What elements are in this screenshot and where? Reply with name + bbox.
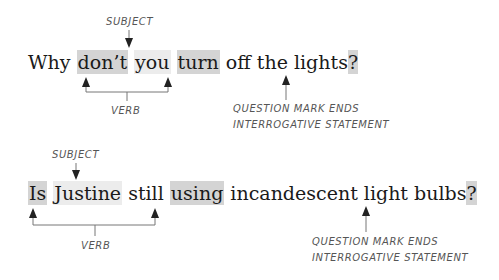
subject-arrow-2 [72,163,80,180]
verb-bracket-2 [29,208,159,236]
verb-part-is: Is [28,181,47,205]
verb-label-1: VERB [111,103,140,118]
word-still: still [128,181,164,205]
subject-arrow-1 [125,30,133,48]
question-caption-1-line1: QUESTION MARK ENDS [233,101,359,116]
sentence-rest: off the lights [226,50,348,74]
subject-label-1: SUBJECT [106,14,153,29]
subject-justine: Justine [53,181,122,205]
sentence-2: Is Justine still using incandescent ligh… [28,181,477,205]
subject-you: you [134,50,170,74]
question-caption-2-line1: QUESTION MARK ENDS [312,234,438,249]
subject-label-2: SUBJECT [52,147,99,162]
sentence-1: Why don’t you turn off the lights? [28,50,358,74]
question-caption-1-line2: INTERROGATIVE STATEMENT [233,117,389,132]
verb-part-turn: turn [177,50,220,74]
verb-part-using: using [170,181,224,205]
verb-label-2: VERB [81,238,110,253]
grammar-diagram: SUBJECT Why don’t you turn off the light… [0,0,499,280]
question-arrow-1 [282,75,290,100]
question-mark: ? [348,50,358,74]
question-arrow-2 [362,206,370,232]
question-caption-2-line2: INTERROGATIVE STATEMENT [312,250,468,265]
sentence-rest: incandescent light bulbs [230,181,466,205]
word-why: Why [28,50,71,74]
question-mark: ? [466,181,476,205]
verb-bracket-1 [82,77,172,101]
verb-part-dont: don’t [77,50,129,74]
